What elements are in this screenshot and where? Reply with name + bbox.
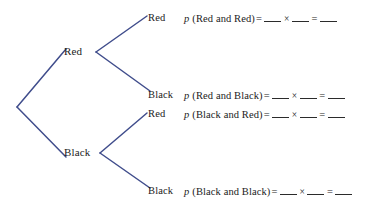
formula-black-black: p(Black and Black)=×= — [184, 186, 354, 197]
formula-red-red: p(Red and Red)=×= — [184, 13, 338, 24]
stage1-node-red: Red — [64, 46, 82, 57]
formula-blank-1[interactable] — [272, 109, 289, 118]
formula-equals: = — [263, 90, 271, 101]
formula-blank-3[interactable] — [320, 13, 337, 22]
formula-event: (Black and Black) — [192, 186, 270, 197]
probability-tree-diagram: Red Black Red Black Red Black p(Red and … — [0, 0, 388, 215]
formula-equals: = — [255, 13, 263, 24]
leaf-node-red-black: Black — [148, 90, 173, 101]
formula-blank-3[interactable] — [328, 109, 345, 118]
formula-equals-2: = — [318, 109, 326, 120]
formula-equals-2: = — [326, 186, 334, 197]
formula-equals-2: = — [310, 13, 318, 24]
formula-equals-2: = — [318, 90, 326, 101]
formula-event: (Red and Red) — [192, 13, 255, 24]
stage1-node-black: Black — [64, 147, 90, 158]
leaf-node-black-black: Black — [148, 186, 173, 197]
formula-blank-3[interactable] — [328, 90, 345, 99]
formula-blank-3[interactable] — [335, 186, 352, 195]
branch-black-to-black — [100, 153, 150, 188]
formula-black-red: p(Black and Red)=×= — [184, 109, 346, 120]
branch-black-to-red — [100, 113, 147, 153]
leaf-node-red-red: Red — [148, 13, 165, 24]
formula-blank-2[interactable] — [292, 13, 309, 22]
branch-root-to-red — [17, 49, 66, 107]
formula-event: (Red and Black) — [192, 90, 262, 101]
formula-blank-1[interactable] — [280, 186, 297, 195]
formula-blank-2[interactable] — [300, 109, 317, 118]
branch-root-to-black — [17, 107, 66, 157]
formula-blank-2[interactable] — [307, 186, 324, 195]
formula-blank-1[interactable] — [272, 90, 289, 99]
formula-times: × — [291, 91, 298, 101]
formula-equals: = — [263, 109, 271, 120]
leaf-node-black-red: Red — [148, 109, 165, 120]
formula-blank-1[interactable] — [264, 13, 281, 22]
formula-times: × — [283, 14, 290, 24]
formula-equals: = — [270, 186, 278, 197]
formula-blank-2[interactable] — [300, 90, 317, 99]
formula-event: (Black and Red) — [192, 109, 262, 120]
formula-times: × — [291, 110, 298, 120]
formula-red-black: p(Red and Black)=×= — [184, 90, 346, 101]
tree-branches — [0, 0, 388, 215]
formula-times: × — [298, 187, 305, 197]
branch-red-to-red — [96, 16, 147, 52]
branch-red-to-black — [96, 52, 150, 91]
